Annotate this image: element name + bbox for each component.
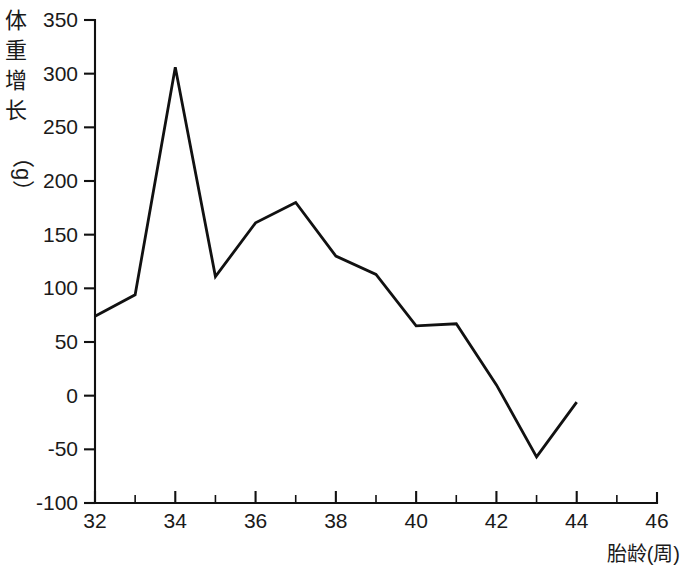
y-tick-label: -100 <box>36 491 78 514</box>
y-axis-title-unit: （g） <box>11 146 36 202</box>
chart-page: -100-50050100150200250300350 32343638404… <box>0 0 684 574</box>
y-tick-label: -50 <box>48 437 78 460</box>
x-tick-label: 44 <box>565 509 589 532</box>
y-tick-label: 200 <box>43 169 78 192</box>
x-tick-label: 40 <box>404 509 427 532</box>
y-axis-title-char: 增 <box>5 68 27 93</box>
y-tick-label: 250 <box>43 115 78 138</box>
y-tick-label: 100 <box>43 276 78 299</box>
y-tick-label: 50 <box>55 330 78 353</box>
x-tick-label: 42 <box>485 509 508 532</box>
x-tick-label: 34 <box>164 509 188 532</box>
chart-background <box>0 0 684 574</box>
y-tick-label: 0 <box>66 384 78 407</box>
y-axis-title-char: 体 <box>5 8 27 33</box>
y-tick-label: 150 <box>43 223 78 246</box>
y-axis-title-char: 长 <box>5 98 27 123</box>
x-tick-label: 32 <box>83 509 106 532</box>
x-tick-label: 46 <box>645 509 668 532</box>
x-tick-label: 36 <box>244 509 267 532</box>
y-tick-label: 300 <box>43 62 78 85</box>
y-axis-title-char: 重 <box>5 38 27 63</box>
x-tick-label: 38 <box>324 509 347 532</box>
line-chart: -100-50050100150200250300350 32343638404… <box>0 0 684 574</box>
y-tick-label: 350 <box>43 8 78 31</box>
x-axis-title: 胎龄(周) <box>607 543 680 565</box>
